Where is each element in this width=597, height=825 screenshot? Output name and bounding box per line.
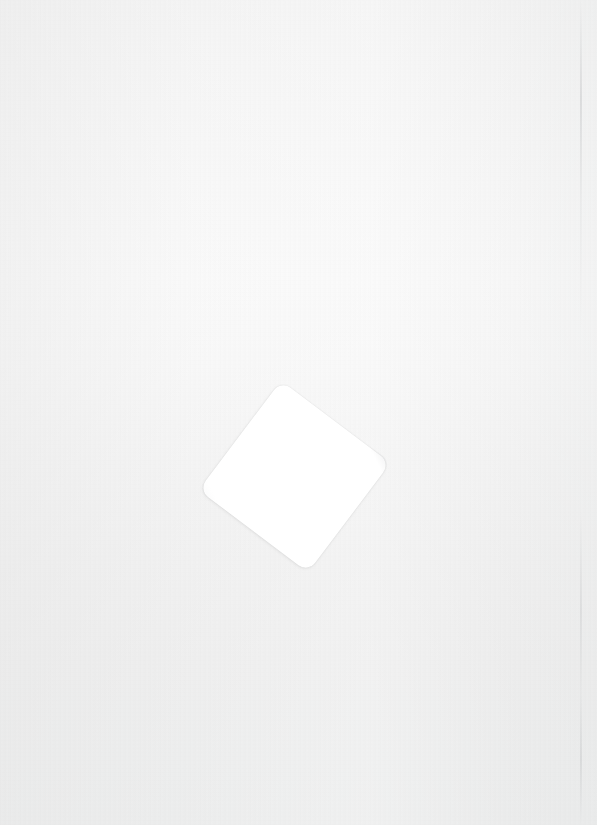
card-layer (0, 0, 597, 825)
rotated-white-card[interactable] (198, 380, 390, 572)
scan-line-artifact (580, 0, 582, 825)
screenshot-canvas (0, 0, 597, 825)
